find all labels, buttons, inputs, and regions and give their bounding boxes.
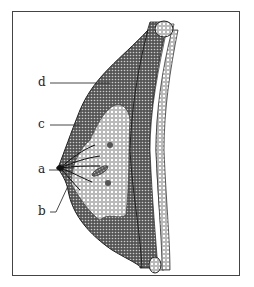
label-c: c [38, 118, 45, 130]
rib-cross-section-top [155, 21, 173, 37]
breast-cross-section-illustration [0, 0, 254, 287]
rib-cross-section-bottom [149, 257, 161, 273]
leader-line-b [50, 186, 68, 212]
label-a: a [38, 163, 45, 175]
label-d: d [38, 76, 46, 88]
label-b: b [38, 205, 46, 217]
